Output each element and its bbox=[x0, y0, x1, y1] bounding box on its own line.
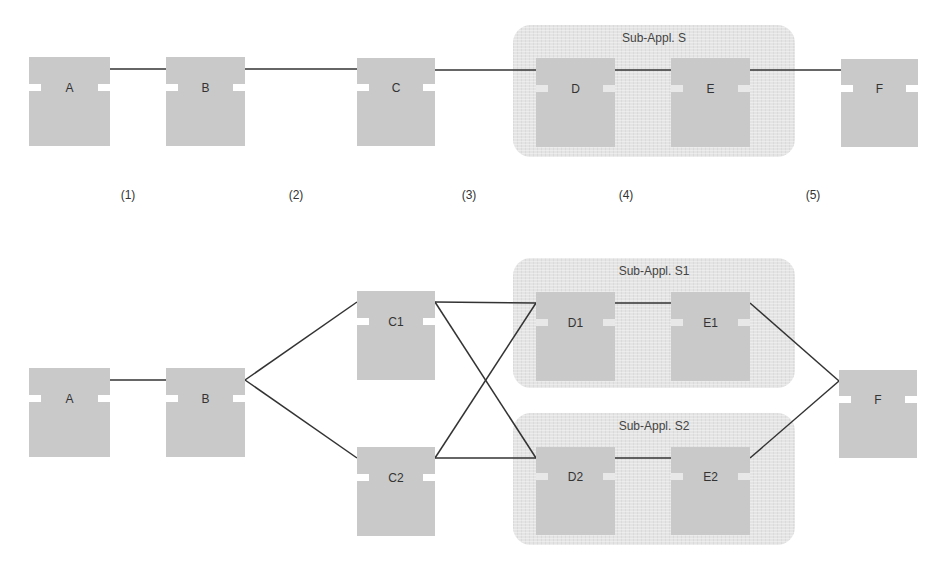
bottom-component-c2[interactable]: C2 bbox=[357, 447, 435, 536]
step-label: (2) bbox=[289, 188, 304, 202]
bottom-component-c1[interactable]: C1 bbox=[357, 291, 435, 380]
component-label: C2 bbox=[357, 471, 435, 485]
application-architecture-diagram: Sub-Appl. SSub-Appl. S1Sub-Appl. S2 ABCD… bbox=[0, 0, 949, 567]
region-label: Sub-Appl. S2 bbox=[513, 419, 795, 433]
component-label: B bbox=[166, 81, 245, 95]
connector-line bbox=[245, 380, 357, 458]
bottom-component-f[interactable]: F bbox=[839, 370, 917, 458]
bottom-component-d2[interactable]: D2 bbox=[536, 447, 615, 535]
component-label: F bbox=[841, 82, 918, 96]
component-label: C1 bbox=[357, 315, 435, 329]
connector-line bbox=[245, 302, 357, 380]
component-label: E1 bbox=[671, 316, 750, 330]
top-component-d[interactable]: D bbox=[536, 58, 615, 147]
top-component-b[interactable]: B bbox=[166, 57, 245, 146]
component-label: D bbox=[536, 82, 615, 96]
component-label: D1 bbox=[536, 316, 615, 330]
top-component-e[interactable]: E bbox=[671, 58, 750, 147]
step-label: (5) bbox=[806, 188, 821, 202]
region-label: Sub-Appl. S bbox=[513, 31, 795, 45]
component-label: F bbox=[839, 393, 917, 407]
component-label: E bbox=[671, 82, 750, 96]
component-label: A bbox=[29, 392, 110, 406]
top-component-c[interactable]: C bbox=[357, 58, 435, 146]
component-label: C bbox=[357, 81, 435, 95]
bottom-component-b[interactable]: B bbox=[166, 368, 245, 457]
bottom-component-d1[interactable]: D1 bbox=[536, 292, 615, 381]
component-label: B bbox=[166, 392, 245, 406]
step-label: (3) bbox=[462, 188, 477, 202]
bottom-component-e1[interactable]: E1 bbox=[671, 292, 750, 381]
component-label: E2 bbox=[671, 470, 750, 484]
connection-lines bbox=[0, 0, 949, 567]
component-label: A bbox=[29, 81, 110, 95]
region-label: Sub-Appl. S1 bbox=[513, 264, 795, 278]
component-label: D2 bbox=[536, 470, 615, 484]
top-component-f[interactable]: F bbox=[841, 59, 918, 147]
step-label: (4) bbox=[619, 188, 634, 202]
bottom-component-e2[interactable]: E2 bbox=[671, 447, 750, 535]
bottom-component-a[interactable]: A bbox=[29, 368, 110, 457]
step-label: (1) bbox=[121, 188, 136, 202]
top-component-a[interactable]: A bbox=[29, 57, 110, 146]
